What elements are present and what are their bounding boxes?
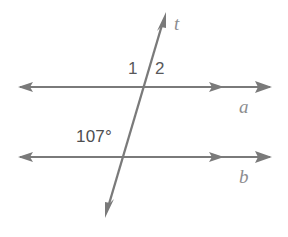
geometry-figure: 1 2 107° t a b <box>0 0 288 237</box>
angle-label-2: 2 <box>155 60 164 77</box>
line-t-group <box>105 12 166 218</box>
line-label-a: a <box>239 97 249 116</box>
angle-measure-107: 107° <box>76 128 112 145</box>
line-b-group <box>18 151 272 163</box>
angle-label-1: 1 <box>128 60 137 77</box>
line-label-b: b <box>239 167 249 186</box>
line-t-segment <box>109 25 162 204</box>
line-label-t: t <box>174 14 179 33</box>
geometry-diagram-svg <box>0 0 288 237</box>
